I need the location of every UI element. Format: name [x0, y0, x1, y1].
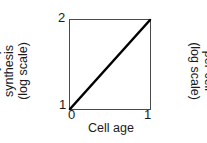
x-axis-tick-right: 1	[144, 108, 151, 121]
y-axis-tick-bottom: 1	[59, 98, 66, 111]
y-axis-tick-top: 2	[58, 11, 65, 24]
y-axis-label-left-line-3: (log scale)	[16, 42, 31, 100]
x-axis-label: Cell age	[78, 122, 144, 135]
x-axis-tick-left: 0	[68, 108, 75, 121]
y-axis-label-right-line-3: (log scale)	[188, 42, 203, 100]
y-axis-label-left: Rate of cytoplasm synthesis (log scale)	[0, 7, 35, 135]
y-axis-label-right-line-2: per cell	[202, 51, 207, 91]
y-axis-label-left-line-2: synthesis	[2, 45, 17, 97]
figure-canvas: 2 1 0 1 Cell age Rate of cytoplasm synth…	[0, 0, 207, 143]
data-line-svg	[69, 19, 151, 110]
series-line-exponential-growth	[70, 20, 150, 109]
y-axis-label-right: Amount of cytoplasm per cell (log scale)	[183, 7, 207, 135]
